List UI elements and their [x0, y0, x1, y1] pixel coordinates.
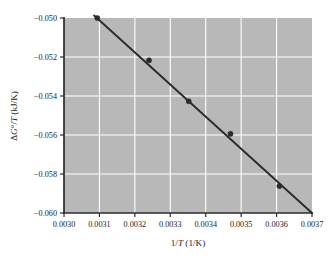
y-tick-label: −0.052	[34, 53, 57, 62]
y-tick-label: −0.050	[34, 14, 57, 23]
van-t-hoff-scatter-chart: 0.00300.00310.00320.00330.00340.00350.00…	[0, 0, 330, 257]
x-tick-label: 0.0030	[53, 220, 76, 229]
data-point-marker	[146, 58, 151, 63]
x-tick-label: 0.0034	[194, 220, 217, 229]
x-tick-label: 0.0035	[230, 220, 253, 229]
y-tick-label: −0.060	[34, 209, 57, 218]
y-axis-title: ΔG°/T (kJ/K)	[9, 91, 19, 141]
y-tick-label: −0.058	[34, 170, 57, 179]
figure-container: 0.00300.00310.00320.00330.00340.00350.00…	[0, 0, 330, 257]
data-point-marker	[228, 131, 233, 136]
y-tick-label: −0.056	[34, 131, 57, 140]
x-tick-label: 0.0032	[124, 220, 147, 229]
x-tick-label: 0.0033	[159, 220, 182, 229]
x-axis-title: 1/T (1/K)	[171, 238, 205, 248]
y-tick-label: −0.054	[34, 92, 57, 101]
x-tick-label: 0.0036	[265, 220, 288, 229]
data-point-marker	[95, 15, 100, 20]
x-tick-label: 0.0031	[88, 220, 111, 229]
data-point-marker	[186, 99, 191, 104]
x-tick-label: 0.0037	[301, 220, 324, 229]
data-point-marker	[277, 183, 282, 188]
plot-area-background	[64, 18, 312, 213]
